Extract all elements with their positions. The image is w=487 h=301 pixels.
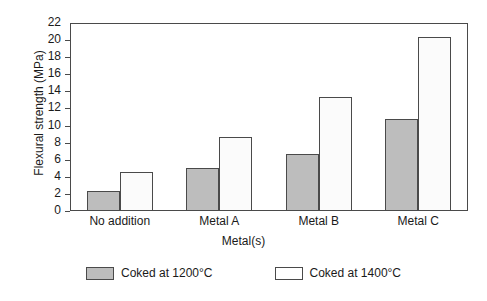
y-axis-tick-12: 12 bbox=[0, 108, 70, 109]
y-tick-label: 22 bbox=[21, 15, 61, 30]
y-axis-tick-2: 2 bbox=[0, 194, 70, 195]
y-axis-tick-4: 4 bbox=[0, 177, 70, 178]
y-tick-label: 14 bbox=[21, 83, 61, 98]
y-tick-label: 10 bbox=[21, 118, 61, 133]
legend-entry-coked-1400: Coked at 1400°C bbox=[275, 266, 402, 280]
bar bbox=[319, 97, 352, 212]
y-axis-tick-22: 22 bbox=[0, 23, 70, 24]
bar bbox=[385, 119, 418, 211]
legend-entry-coked-1200: Coked at 1200°C bbox=[86, 266, 213, 280]
y-tick-label: 6 bbox=[21, 152, 61, 167]
y-axis-tick-8: 8 bbox=[0, 143, 70, 144]
flexural-strength-bar-chart: Flexural strength (MPa) 0246810121416182… bbox=[0, 0, 487, 301]
y-axis-tick-14: 14 bbox=[0, 91, 70, 92]
y-tick-label: 16 bbox=[21, 66, 61, 81]
bar bbox=[87, 191, 120, 212]
bar bbox=[286, 154, 319, 211]
bar bbox=[418, 37, 451, 211]
y-tick-label: 12 bbox=[21, 100, 61, 115]
legend-swatch-icon-series-0 bbox=[86, 267, 114, 280]
y-axis-tick-10: 10 bbox=[0, 126, 70, 127]
legend-swatch-icon-series-1 bbox=[275, 267, 303, 280]
legend-label-series-0: Coked at 1200°C bbox=[121, 266, 213, 280]
x-axis-title: Metal(s) bbox=[0, 234, 487, 248]
y-tick-label: 0 bbox=[21, 203, 61, 218]
legend-label-series-1: Coked at 1400°C bbox=[310, 266, 402, 280]
x-tick-label: Metal C bbox=[358, 214, 478, 228]
bar-series-layer bbox=[70, 23, 468, 211]
y-tick-label: 4 bbox=[21, 169, 61, 184]
bar bbox=[219, 137, 252, 211]
y-tick-label: 8 bbox=[21, 135, 61, 150]
y-tick-label: 2 bbox=[21, 186, 61, 201]
y-tick-label: 20 bbox=[21, 32, 61, 47]
y-tick-label: 18 bbox=[21, 49, 61, 64]
y-tick-mark bbox=[65, 211, 70, 212]
y-axis-tick-20: 20 bbox=[0, 40, 70, 41]
y-axis-tick-0: 0 bbox=[0, 211, 70, 212]
y-axis-tick-6: 6 bbox=[0, 160, 70, 161]
chart-legend: Coked at 1200°C Coked at 1400°C bbox=[0, 266, 487, 280]
y-axis-tick-16: 16 bbox=[0, 74, 70, 75]
y-axis-tick-18: 18 bbox=[0, 57, 70, 58]
bar bbox=[186, 168, 219, 211]
bar bbox=[120, 172, 153, 211]
